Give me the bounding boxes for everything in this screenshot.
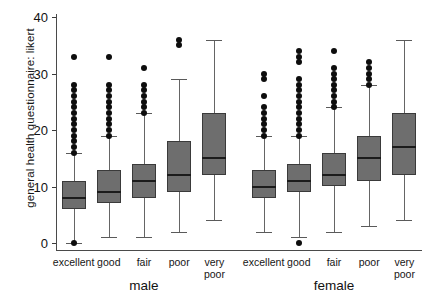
x-tick-label: verypoor (204, 256, 225, 280)
y-axis-title: general health questionnaire: likert (24, 0, 36, 243)
outlier-point (296, 116, 302, 122)
outlier-point (106, 116, 112, 122)
outlier-point (331, 65, 337, 71)
outlier-point (331, 48, 337, 54)
x-tick-label: excellent (53, 256, 94, 268)
outlier-point (366, 59, 372, 65)
median-line (392, 146, 416, 148)
outlier-point (106, 93, 112, 99)
outlier-point (71, 138, 77, 144)
y-tick-label: 0 (8, 236, 48, 251)
group-label: male (129, 278, 158, 293)
outlier-point (71, 133, 77, 139)
outlier-point (331, 82, 337, 88)
box-iqr (287, 164, 311, 192)
outlier-point (106, 104, 112, 110)
outlier-point (331, 76, 337, 82)
outlier-point (141, 65, 147, 71)
group-label: female (314, 278, 355, 293)
outlier-point (331, 71, 337, 77)
outlier-point (296, 87, 302, 93)
median-line (167, 174, 191, 176)
x-axis-line (56, 250, 422, 251)
outlier-point (296, 54, 302, 60)
whisker-cap-upper (171, 79, 187, 80)
outlier-point (106, 87, 112, 93)
outlier-point (261, 76, 267, 82)
whisker-cap-lower (361, 226, 377, 227)
outlier-point (71, 110, 77, 116)
outlier-point (71, 144, 77, 150)
outlier-point (141, 87, 147, 93)
whisker-cap-lower (396, 220, 412, 221)
outlier-point (331, 99, 337, 105)
outlier-point (106, 133, 112, 139)
outlier-point (261, 110, 267, 116)
x-tick-label: excellent (243, 256, 284, 268)
outlier-point (296, 104, 302, 110)
whisker-cap-lower (136, 237, 152, 238)
outlier-point (366, 76, 372, 82)
y-tick-label: 30 (8, 66, 48, 81)
outlier-point (176, 37, 182, 43)
outlier-point (106, 121, 112, 127)
box-iqr (62, 181, 86, 209)
outlier-point (71, 121, 77, 127)
median-line (322, 174, 346, 176)
box-iqr (202, 113, 226, 175)
outlier-point (296, 99, 302, 105)
outlier-point (296, 93, 302, 99)
outlier-point (141, 99, 147, 105)
box-iqr (392, 113, 416, 175)
outlier-point (261, 93, 267, 99)
median-line (97, 191, 121, 193)
outlier-point (261, 71, 267, 77)
outlier-point (261, 133, 267, 139)
outlier-point (71, 150, 77, 156)
outlier-point (141, 110, 147, 116)
whisker-cap-lower (291, 237, 307, 238)
outlier-point (141, 93, 147, 99)
outlier-point (176, 42, 182, 48)
outlier-point (296, 127, 302, 133)
outlier-point (71, 87, 77, 93)
whisker-cap-lower (256, 232, 272, 233)
box-iqr (97, 170, 121, 204)
outlier-point (106, 110, 112, 116)
outlier-point (106, 99, 112, 105)
outlier-point (106, 127, 112, 133)
outlier-point (71, 82, 77, 88)
outlier-point (261, 104, 267, 110)
x-tick-label: fair (137, 256, 152, 268)
y-tick-label: 20 (8, 123, 48, 138)
outlier-point (71, 240, 77, 246)
outlier-point (261, 121, 267, 127)
outlier-point (141, 82, 147, 88)
x-tick-label: good (97, 256, 120, 268)
outlier-point (366, 65, 372, 71)
median-line (357, 157, 381, 159)
box-iqr (322, 153, 346, 187)
whisker-cap-upper (206, 40, 222, 41)
outlier-point (71, 93, 77, 99)
outlier-point (141, 104, 147, 110)
outlier-point (331, 87, 337, 93)
y-tick-label: 40 (8, 10, 48, 25)
outlier-point (106, 82, 112, 88)
outlier-point (296, 48, 302, 54)
x-tick-label: poor (169, 256, 190, 268)
median-line (132, 180, 156, 182)
whisker-cap-lower (171, 232, 187, 233)
whisker-cap-lower (326, 232, 342, 233)
outlier-point (296, 240, 302, 246)
outlier-point (296, 121, 302, 127)
outlier-point (71, 127, 77, 133)
median-line (287, 180, 311, 182)
outlier-point (331, 93, 337, 99)
outlier-point (261, 127, 267, 133)
box-iqr (167, 141, 191, 192)
x-tick-label: good (287, 256, 310, 268)
median-line (62, 197, 86, 199)
x-tick-label: poor (359, 256, 380, 268)
outlier-point (296, 76, 302, 82)
